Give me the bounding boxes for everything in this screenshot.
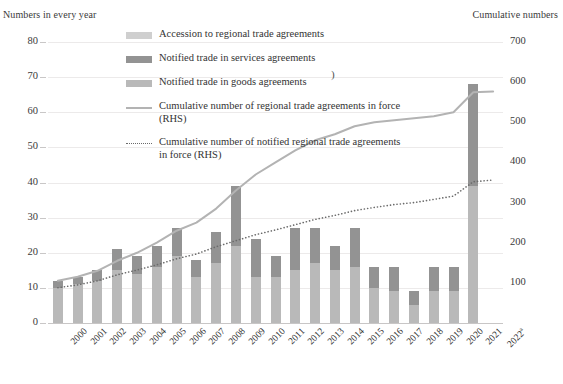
y-tick-label: 70 — [4, 71, 38, 82]
x-tick-label: 2007 — [207, 326, 228, 347]
x-tick-label: 2015 — [365, 326, 386, 347]
y-tick-label: 50 — [4, 141, 38, 152]
y2-tick-label: 700 — [510, 36, 556, 47]
bottom-caption — [0, 375, 563, 384]
y-tick-label: 10 — [4, 282, 38, 293]
legend-item: Cumulative number of notified regional t… — [126, 136, 404, 161]
x-tick-label: 2009 — [246, 326, 267, 347]
legend-label: Cumulative number of regional trade agre… — [159, 100, 404, 125]
legend-item: Notified trade in goods agreements — [126, 76, 307, 89]
left-axis-caption: Numbers in every year — [3, 9, 96, 20]
x-tick-label: 2014 — [345, 326, 366, 347]
y2-tick-label: 100 — [510, 277, 556, 288]
legend-dotted-line-icon — [126, 143, 152, 144]
legend-label: Notified trade in goods agreements — [159, 76, 307, 89]
y-tick-label: 30 — [4, 212, 38, 223]
y-tick-mark — [40, 77, 46, 78]
x-tick-label: 2000 — [68, 326, 89, 347]
legend-swatch-icon — [126, 80, 152, 87]
x-tick-label: 2022a — [504, 326, 527, 349]
legend-swatch-icon — [126, 56, 152, 63]
legend-label: Accession to regional trade agreements — [159, 28, 324, 41]
y2-tick-label: 500 — [510, 116, 556, 127]
x-tick-label: 2012 — [306, 326, 327, 347]
x-tick-label: 2005 — [167, 326, 188, 347]
x-tick-label: 2019 — [444, 326, 465, 347]
x-tick-label: 2016 — [385, 326, 406, 347]
y2-tick-label: 600 — [510, 76, 556, 87]
legend-line-icon — [126, 107, 152, 109]
notified-cumulative-line — [58, 180, 493, 288]
x-tick-label: 2020 — [464, 326, 485, 347]
y-tick-mark — [40, 112, 46, 113]
legend-item: Accession to regional trade agreements — [126, 28, 324, 41]
x-tick-label: 2017 — [405, 326, 426, 347]
x-tick-label: 2021 — [484, 326, 505, 347]
x-tick-label: 2006 — [187, 326, 208, 347]
x-tick-label: 2002 — [108, 326, 129, 347]
y2-tick-label: 200 — [510, 237, 556, 248]
y-tick-mark — [40, 253, 46, 254]
y-tick-mark — [40, 42, 46, 43]
y-tick-label: 0 — [4, 317, 38, 328]
legend-item: Notified trade in services agreements — [126, 52, 315, 65]
legend-label: Notified trade in services agreements — [159, 52, 315, 65]
x-tick-label: 2001 — [88, 326, 109, 347]
y-tick-label: 40 — [4, 177, 38, 188]
y2-tick-label: 300 — [510, 197, 556, 208]
x-tick-label: 2013 — [326, 326, 347, 347]
y-tick-mark — [40, 323, 46, 324]
y-tick-mark — [40, 147, 46, 148]
legend-label: Cumulative number of notified regional t… — [159, 136, 404, 161]
gridline — [48, 323, 503, 324]
stray-parenthesis-glyph: ) — [331, 68, 335, 80]
x-tick-label: 2008 — [227, 326, 248, 347]
y-tick-mark — [40, 288, 46, 289]
y-tick-label: 60 — [4, 106, 38, 117]
x-tick-label: 2010 — [266, 326, 287, 347]
right-axis-caption: Cumulative numbers — [473, 9, 558, 20]
y-tick-mark — [40, 218, 46, 219]
chart-container: Numbers in every year Cumulative numbers… — [0, 0, 563, 384]
legend-swatch-icon — [126, 32, 152, 39]
x-tick-label: 2011 — [286, 326, 306, 346]
x-tick-label: 2018 — [425, 326, 446, 347]
legend-item: Cumulative number of regional trade agre… — [126, 100, 404, 125]
y-tick-mark — [40, 183, 46, 184]
y-tick-label: 80 — [4, 36, 38, 47]
y2-tick-label: 400 — [510, 156, 556, 167]
x-tick-label: 2003 — [128, 326, 149, 347]
x-tick-label: 2004 — [148, 326, 169, 347]
y-tick-label: 20 — [4, 247, 38, 258]
